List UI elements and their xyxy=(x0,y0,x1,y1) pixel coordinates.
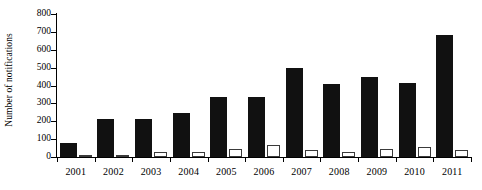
bar-series-white xyxy=(267,145,280,158)
bar-series-white xyxy=(455,150,468,157)
bar-series-black xyxy=(60,143,77,157)
x-axis-tick xyxy=(471,158,472,162)
bar-series-white xyxy=(418,147,431,157)
x-axis-tick xyxy=(170,158,171,162)
bar-series-white xyxy=(380,149,393,157)
x-axis-tick-label: 2007 xyxy=(283,166,321,178)
bar-series-black xyxy=(361,77,378,157)
x-axis-tick-label: 2009 xyxy=(358,166,396,178)
bar-series-black xyxy=(248,97,265,157)
bar-chart: Number of notifications 0100200300400500… xyxy=(0,0,482,190)
bar-series-black xyxy=(436,35,453,157)
x-axis-tick-label: 2010 xyxy=(396,166,434,178)
x-axis-tick xyxy=(396,158,397,162)
x-axis-tick xyxy=(245,158,246,162)
bar-series-white xyxy=(154,152,167,157)
y-axis-tick-label: 200 xyxy=(5,116,51,126)
x-axis-tick-label: 2011 xyxy=(433,166,471,178)
x-axis-tick xyxy=(283,158,284,162)
bar-series-white xyxy=(305,150,318,158)
x-axis-tick-label: 2001 xyxy=(57,166,95,178)
x-axis-tick-label: 2004 xyxy=(170,166,208,178)
x-axis-tick xyxy=(433,158,434,162)
bar-series-white xyxy=(342,152,355,157)
bar-series-black xyxy=(173,113,190,157)
y-axis-tick-label: 400 xyxy=(5,81,51,91)
x-axis-tick-label: 2003 xyxy=(132,166,170,178)
x-axis-tick xyxy=(320,158,321,162)
x-axis-tick-label: 2008 xyxy=(320,166,358,178)
bar-series-white xyxy=(79,155,92,157)
x-axis-tick xyxy=(358,158,359,162)
x-axis-tick xyxy=(95,158,96,162)
y-axis-tick-label: 300 xyxy=(5,98,51,108)
bar-series-black xyxy=(135,119,152,157)
y-axis-tick-label: 500 xyxy=(5,63,51,73)
plot-area xyxy=(57,14,471,157)
x-axis-line xyxy=(56,157,472,158)
y-axis-tick-label: 800 xyxy=(5,9,51,19)
y-axis-tick-label: 0 xyxy=(5,152,51,162)
bar-series-white xyxy=(116,155,129,157)
bar-series-white xyxy=(229,149,242,157)
x-axis-tick xyxy=(57,158,58,162)
x-axis-tick-label: 2005 xyxy=(208,166,246,178)
bar-series-black xyxy=(286,68,303,157)
bar-series-black xyxy=(399,83,416,157)
y-axis-tick-label: 100 xyxy=(5,134,51,144)
bar-series-black xyxy=(97,119,114,157)
bar-series-black xyxy=(323,84,340,157)
x-axis-tick xyxy=(208,158,209,162)
x-axis-tick-label: 2006 xyxy=(245,166,283,178)
x-axis-tick-label: 2002 xyxy=(95,166,133,178)
x-axis-tick xyxy=(132,158,133,162)
bar-series-black xyxy=(210,97,227,157)
y-axis-tick-label: 700 xyxy=(5,27,51,37)
bar-series-white xyxy=(192,152,205,157)
y-axis-tick-label: 600 xyxy=(5,45,51,55)
